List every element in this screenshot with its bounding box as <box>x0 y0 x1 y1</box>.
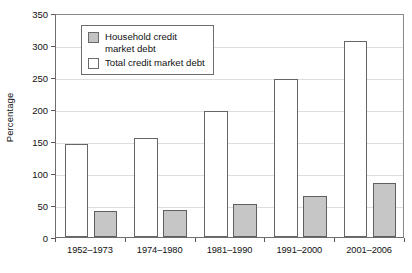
x-axis-tick-mark <box>404 238 405 242</box>
x-axis-tick-mark <box>125 238 126 242</box>
x-axis-tick-label: 1991–2000 <box>276 245 322 255</box>
bar-household-credit-market-debt <box>233 204 257 237</box>
legend-swatch-total-icon <box>88 58 99 69</box>
bar-total-credit-market-debt <box>274 79 298 237</box>
legend-label-total: Total credit market debt <box>105 57 205 69</box>
bar-chart: Percentage 050100150200250300350 Househo… <box>0 0 412 273</box>
bar-household-credit-market-debt <box>373 183 397 237</box>
bar-total-credit-market-debt <box>134 138 158 237</box>
legend-item-total: Total credit market debt <box>88 57 205 69</box>
x-axis-tick-mark <box>334 238 335 242</box>
bar-total-credit-market-debt <box>65 144 89 237</box>
bar-total-credit-market-debt <box>344 41 368 237</box>
chart-legend: Household credit market debt Total credi… <box>81 25 214 75</box>
legend-swatch-household-icon <box>88 32 99 43</box>
legend-label-household: Household credit market debt <box>105 31 177 54</box>
x-axis-tick-label: 1952–1973 <box>67 245 113 255</box>
plot-area: Household credit market debt Total credi… <box>55 14 404 238</box>
x-axis-tick-label: 1981–1990 <box>207 245 253 255</box>
y-axis-title: Percentage <box>2 0 18 235</box>
bar-total-credit-market-debt <box>204 111 228 237</box>
y-axis-title-text: Percentage <box>5 93 16 143</box>
x-axis-tick-mark <box>264 238 265 242</box>
bar-household-credit-market-debt <box>163 210 187 238</box>
x-axis-tick-label: 1974–1980 <box>137 245 183 255</box>
bar-household-credit-market-debt <box>303 196 327 237</box>
legend-item-household: Household credit market debt <box>88 31 205 54</box>
bar-household-credit-market-debt <box>94 211 118 237</box>
x-axis-tick-mark <box>55 238 56 242</box>
x-axis-tick-label: 2001–2006 <box>346 245 392 255</box>
x-axis-tick-mark <box>195 238 196 242</box>
